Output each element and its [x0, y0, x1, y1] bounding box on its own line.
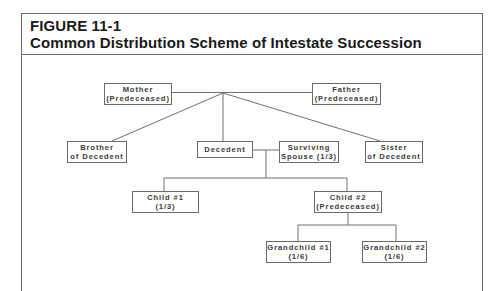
node-grandchild-2-share: (1/6): [384, 252, 404, 261]
node-brother-name: Brother: [80, 143, 114, 152]
node-child-1: Child #1 (1/3): [132, 191, 199, 213]
node-sister: Sister of Decedent: [365, 141, 423, 163]
node-father: Father (Predeceased): [312, 83, 381, 105]
node-mother-status: (Predeceased): [106, 94, 170, 103]
node-spouse-name: Surviving: [288, 143, 331, 152]
node-father-name: Father: [332, 85, 361, 94]
node-brother: Brother of Decedent: [67, 141, 127, 163]
node-decedent: Decedent: [197, 141, 253, 158]
node-surviving-spouse: Surviving Spouse (1/3): [279, 141, 339, 163]
node-grandchild-2-name: Grandchild #2: [363, 243, 425, 252]
node-decedent-name: Decedent: [204, 145, 245, 154]
node-child-1-name: Child #1: [147, 193, 184, 202]
node-child-2-status: (Predeceased): [316, 202, 380, 211]
node-father-status: (Predeceased): [315, 94, 379, 103]
node-child-1-share: (1/3): [155, 202, 175, 211]
node-grandchild-2: Grandchild #2 (1/6): [362, 241, 427, 263]
node-brother-relation: of Decedent: [70, 152, 123, 161]
node-spouse-share: Spouse (1/3): [281, 152, 337, 161]
node-child-2-name: Child #2: [330, 193, 367, 202]
node-sister-relation: of Decedent: [367, 152, 420, 161]
node-sister-name: Sister: [381, 143, 408, 152]
node-grandchild-1: Grandchild #1 (1/6): [266, 241, 331, 263]
node-mother-name: Mother: [123, 85, 154, 94]
node-mother: Mother (Predeceased): [104, 83, 172, 105]
node-grandchild-1-share: (1/6): [288, 252, 308, 261]
node-child-2: Child #2 (Predeceased): [314, 191, 382, 213]
figure-canvas: FIGURE 11-1 Common Distribution Scheme o…: [0, 0, 500, 291]
node-grandchild-1-name: Grandchild #1: [267, 243, 329, 252]
